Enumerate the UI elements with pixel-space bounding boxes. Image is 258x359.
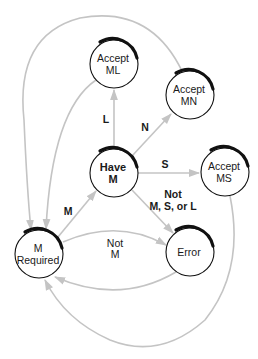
- node-label-line2: MS: [216, 172, 232, 184]
- node-m-required: M Required: [15, 229, 63, 278]
- node-label-line1: Accept: [208, 160, 240, 172]
- edge-have-m-to-accept-mn: [132, 114, 171, 156]
- node-label-line1: Accept: [97, 52, 129, 64]
- node-label-line2: MN: [181, 95, 197, 107]
- node-accept-mn: Accept MN: [166, 70, 214, 119]
- node-label-line2: Required: [17, 254, 60, 266]
- node-label-line1: Accept: [173, 83, 205, 95]
- node-accept-ml: Accept ML: [90, 39, 138, 88]
- node-label-line2: ML: [106, 64, 121, 76]
- node-label-line1: M: [34, 242, 43, 254]
- node-error: Error: [166, 227, 214, 276]
- node-label-line1: Have: [100, 161, 126, 173]
- node-have-m: Have M: [90, 148, 138, 197]
- node-label-line2: M: [108, 173, 117, 185]
- edge-label-not-msl-line1: Not: [164, 188, 182, 200]
- edge-label-s: S: [161, 158, 168, 170]
- edge-label-m: M: [64, 205, 73, 217]
- edge-label-not-m-line2: M: [111, 248, 120, 260]
- state-diagram: L N S Not M, S, or L M Not M Accept ML A…: [0, 0, 258, 359]
- edge-label-not-msl-line2: M, S, or L: [149, 200, 197, 212]
- node-accept-ms: Accept MS: [201, 147, 249, 196]
- edge-error-to-m-required: [55, 272, 176, 290]
- edge-label-n: N: [141, 121, 149, 133]
- edge-label-l: L: [103, 113, 110, 125]
- node-label-line1: Error: [177, 246, 201, 258]
